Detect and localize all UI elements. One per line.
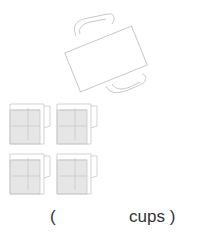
measuring-cup-icon [8, 100, 52, 146]
answer-unit: cups ) [129, 207, 175, 227]
measuring-cups-grid [8, 100, 98, 200]
measuring-cup-icon [55, 100, 99, 146]
big-pitcher [62, 8, 158, 96]
open-paren: ( [50, 207, 56, 227]
answer-line: ( cups ) [40, 203, 207, 233]
measuring-cup-icon [8, 150, 52, 196]
measuring-cup-icon [55, 150, 99, 196]
pitcher-icon [62, 8, 158, 96]
